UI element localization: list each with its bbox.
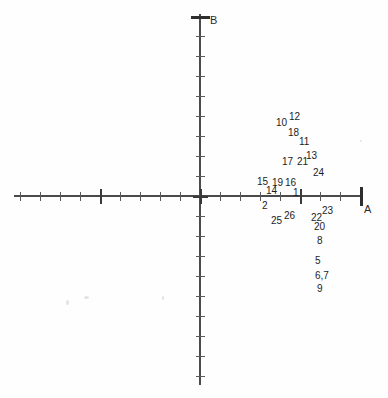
- y-axis-tick: [196, 276, 205, 277]
- x-axis-tick: [140, 192, 141, 201]
- y-axis-tick: [196, 56, 205, 57]
- data-point-label: 10: [276, 118, 287, 128]
- y-axis-tick: [196, 176, 205, 177]
- data-point-label: 20: [314, 222, 325, 232]
- x-axis-tick: [60, 192, 61, 201]
- y-axis-tick: [191, 16, 210, 19]
- x-axis-tick: [280, 192, 281, 201]
- scan-speck: [162, 296, 164, 300]
- x-axis-tick: [360, 187, 363, 206]
- scan-speck: [360, 140, 362, 142]
- x-axis-tick: [40, 192, 41, 201]
- data-point-label: 5: [315, 256, 321, 266]
- y-axis-tick: [196, 136, 205, 137]
- y-axis-tick: [196, 76, 205, 77]
- x-axis-tick: [220, 192, 221, 201]
- x-axis-tick: [120, 192, 121, 201]
- data-point-label: 18: [288, 128, 299, 138]
- scatter-plot-canvas: A B 121018111317212415191614122326222520…: [0, 0, 388, 398]
- data-point-label: 12: [289, 112, 300, 122]
- data-point-label: 21: [297, 157, 308, 167]
- y-axis-tick: [196, 236, 205, 237]
- scan-speck: [84, 296, 89, 299]
- x-axis-tick: [340, 192, 341, 201]
- data-point-label: 25: [271, 216, 282, 226]
- x-axis-tick: [20, 192, 21, 201]
- data-point-label: 2: [262, 201, 268, 211]
- x-axis-tick: [160, 192, 161, 201]
- x-axis-tick: [180, 192, 181, 201]
- data-point-label: 11: [299, 137, 309, 147]
- x-axis-tick: [80, 192, 81, 201]
- y-axis-tick: [196, 336, 205, 337]
- y-axis-tick: [193, 196, 208, 198]
- x-axis-label-a: A: [364, 203, 372, 215]
- data-point-label: 8: [317, 236, 323, 246]
- data-point-label: 6,7: [315, 271, 329, 281]
- data-point-label: 26: [284, 211, 295, 221]
- horizontal-axis-line: [14, 195, 361, 197]
- data-point-label: 24: [313, 168, 324, 178]
- y-axis-tick: [196, 216, 205, 217]
- scan-speck: [66, 300, 69, 305]
- x-axis-tick: [260, 192, 261, 201]
- y-axis-tick: [196, 356, 205, 357]
- x-axis-tick: [320, 192, 321, 201]
- x-axis-tick: [100, 189, 102, 204]
- y-axis-tick: [196, 156, 205, 157]
- y-axis-tick: [196, 96, 205, 97]
- x-axis-tick: [300, 189, 302, 204]
- data-point-label: 14: [266, 186, 277, 196]
- data-point-label: 17: [282, 157, 293, 167]
- data-point-label: 1: [293, 188, 299, 198]
- data-point-label: 9: [317, 284, 323, 294]
- data-point-label: 23: [322, 206, 333, 216]
- y-axis-tick: [196, 36, 205, 37]
- x-axis-tick: [240, 192, 241, 201]
- y-axis-tick: [196, 376, 205, 377]
- y-axis-label-b: B: [210, 14, 218, 26]
- y-axis-tick: [196, 116, 205, 117]
- y-axis-tick: [196, 296, 205, 297]
- y-axis-tick: [196, 316, 205, 317]
- y-axis-tick: [196, 256, 205, 257]
